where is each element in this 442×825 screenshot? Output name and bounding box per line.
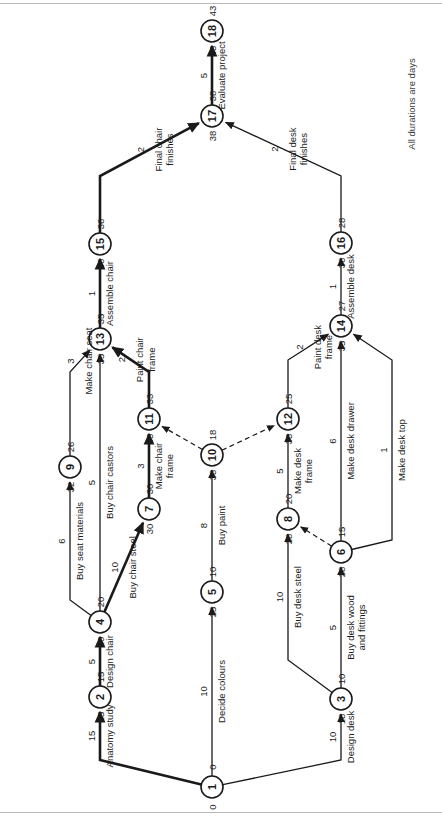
- activity-duration: 8: [198, 523, 209, 528]
- event-earliest-time: 0: [207, 764, 218, 769]
- activity-label: Final chair: [153, 128, 164, 172]
- event-node-6: 61528: [330, 527, 352, 578]
- activity-duration: 1: [378, 447, 389, 452]
- activity-label: Make chair seat: [83, 327, 94, 394]
- activity-label: and fittings: [356, 604, 367, 650]
- activity-arc-final-desk-finishes: [226, 122, 341, 232]
- activity-arc-design-desk: [223, 714, 341, 785]
- activity-duration: 5: [198, 73, 209, 78]
- activity-label: Evaluate project: [216, 41, 227, 109]
- dummy-arc-10-to-12: [222, 425, 275, 450]
- event-latest-time: 33: [207, 470, 218, 481]
- event-latest-time: 28: [283, 534, 294, 545]
- activity-label: frame: [323, 335, 334, 359]
- activity-duration: 2: [269, 147, 280, 152]
- event-latest-time: 30: [144, 524, 155, 535]
- activity-label: Design chair: [104, 635, 115, 688]
- activity-label: Paint desk: [312, 325, 323, 370]
- event-latest-time: 0: [207, 804, 218, 809]
- activity-duration: 10: [109, 562, 120, 573]
- event-latest-time: 33: [144, 434, 155, 445]
- event-node-10: 101833: [201, 430, 223, 481]
- event-node-id: 16: [335, 237, 347, 249]
- event-latest-time: 38: [207, 131, 218, 142]
- activity-label: finishes: [298, 133, 309, 165]
- activity-label: Buy seat materials: [74, 502, 85, 580]
- activity-arc-anatomy-study: [100, 712, 201, 784]
- event-earliest-time: 10: [207, 567, 218, 578]
- activity-duration: 5: [274, 468, 285, 473]
- activity-label: frame: [164, 454, 175, 478]
- activity-duration: 1: [327, 284, 338, 289]
- event-earliest-time: 18: [207, 430, 218, 441]
- activity-duration: 3: [135, 463, 146, 468]
- activity-label: Anatomy study: [104, 704, 115, 767]
- event-node-id: 1: [206, 784, 218, 790]
- event-earliest-time: 28: [336, 218, 347, 229]
- activity-duration: 2: [116, 357, 127, 362]
- activity-duration: 3: [65, 358, 76, 363]
- activity-label: Buy desk steel: [292, 566, 303, 628]
- activity-duration: 6: [56, 538, 67, 543]
- event-earliest-time: 15: [336, 527, 347, 538]
- activity-arc-final-chair-finishes: [100, 123, 199, 233]
- event-earliest-time: 26: [65, 442, 76, 453]
- event-node-id: 5: [206, 589, 218, 595]
- event-node-11: 113333: [138, 394, 160, 445]
- event-node-5: 51025: [201, 567, 223, 618]
- event-node-id: 8: [282, 516, 294, 522]
- event-earliest-time: 43: [207, 6, 218, 17]
- activity-label: Buy chair steel: [127, 536, 138, 598]
- network-diagram-canvas: 1002151531018420205102561528730308202892…: [0, 0, 442, 825]
- activity-duration: 1: [86, 291, 97, 296]
- activity-duration: 2: [135, 147, 146, 152]
- event-earliest-time: 20: [95, 597, 106, 608]
- event-node-id: 15: [94, 238, 106, 250]
- dummy-arc-6-to-8: [301, 527, 332, 546]
- event-latest-time: 35: [336, 341, 347, 352]
- durations-note: All durations are days: [406, 58, 417, 150]
- activity-duration: 5: [86, 480, 97, 485]
- event-latest-time: 25: [207, 607, 218, 618]
- event-node-id: 18: [206, 25, 218, 37]
- activity-label: frame: [146, 348, 157, 372]
- event-node-id: 6: [335, 549, 347, 555]
- activity-labels-layer: 15Anatomy study10Decide colours10Design …: [56, 41, 407, 767]
- event-node-id: 13: [94, 333, 106, 345]
- activity-label: Assemble chair: [104, 261, 115, 326]
- event-node-id: 11: [143, 413, 155, 425]
- activity-duration: 10: [198, 686, 209, 697]
- activity-label: frame: [303, 459, 314, 483]
- activity-duration: 6: [327, 438, 338, 443]
- activity-duration: 5: [327, 625, 338, 630]
- event-node-id: 17: [206, 110, 218, 122]
- activity-label: Make desk drawer: [345, 402, 356, 480]
- activity-label: Buy chair castors: [104, 446, 115, 519]
- event-node-id: 3: [335, 696, 347, 702]
- activity-label: Decide colours: [216, 660, 227, 723]
- activity-duration: 10: [327, 732, 338, 743]
- activity-duration: 15: [86, 731, 97, 742]
- event-node-id: 2: [94, 694, 106, 700]
- activity-label: Make desk: [292, 448, 303, 494]
- event-node-id: 4: [94, 618, 106, 625]
- event-earliest-time: 33: [144, 394, 155, 405]
- activity-label: Design desk: [345, 711, 356, 764]
- activity-duration: 2: [294, 344, 305, 349]
- event-latest-time: 32: [65, 482, 76, 493]
- activity-arc-make-desk-top: [352, 334, 392, 549]
- event-latest-time: 33: [283, 434, 294, 445]
- activity-duration: 10: [274, 592, 285, 603]
- event-node-id: 9: [64, 464, 76, 470]
- event-node-9: 92632: [59, 442, 81, 493]
- activity-label: Assemble desk: [345, 254, 356, 319]
- event-node-12: 122533: [277, 394, 299, 445]
- event-earliest-time: 36: [95, 219, 106, 230]
- activity-label: Paint chair: [134, 337, 145, 382]
- event-node-8: 82028: [277, 494, 299, 545]
- event-latest-time: 35: [95, 354, 106, 365]
- event-earliest-time: 25: [283, 394, 294, 405]
- event-node-id: 10: [206, 449, 218, 461]
- activity-label: Final desk: [287, 127, 298, 171]
- activity-duration: 5: [86, 659, 97, 664]
